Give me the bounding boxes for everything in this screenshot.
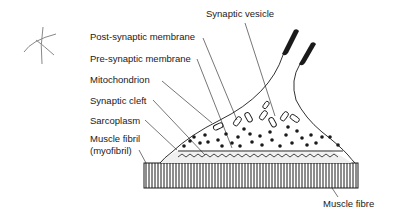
leader-synaptic-cleft xyxy=(153,100,205,155)
label-synaptic-vesicle: Synaptic vesicle xyxy=(206,8,274,19)
neuromuscular-junction-diagram xyxy=(0,0,400,224)
leader-post-synaptic-membrane xyxy=(203,38,237,120)
synaptic-vesicles xyxy=(182,125,340,148)
muscle-fibre-block xyxy=(144,163,358,188)
nerve-terminal xyxy=(160,55,355,163)
leader-sarcoplasm xyxy=(145,120,177,150)
label-muscle-fibril-sub: (myofibril) xyxy=(90,145,132,156)
label-mitochondrion: Mitochondrion xyxy=(90,74,150,85)
label-post-synaptic-membrane: Post-synaptic membrane xyxy=(90,31,195,42)
myelin-sheath xyxy=(282,29,316,65)
label-sarcoplasm: Sarcoplasm xyxy=(90,115,140,126)
leader-mitochondrion xyxy=(162,81,212,123)
leader-pre-synaptic-membrane xyxy=(197,59,232,148)
pencil-mark-icon xyxy=(24,27,56,64)
label-synaptic-cleft: Synaptic cleft xyxy=(90,95,147,106)
leader-muscle-fibril xyxy=(139,150,146,163)
leader-muscle-fibre xyxy=(332,188,338,197)
label-muscle-fibril: Muscle fibril xyxy=(90,133,140,144)
leader-synaptic-vesicle xyxy=(245,23,275,116)
label-pre-synaptic-membrane: Pre-synaptic membrane xyxy=(90,53,191,64)
label-muscle-fibre: Muscle fibre xyxy=(323,198,374,209)
